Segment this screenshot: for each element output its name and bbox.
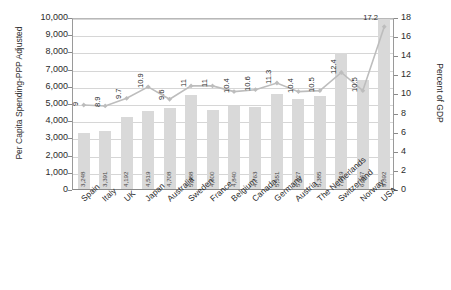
y-axis-left-tick-label: 0: [24, 184, 68, 194]
y-axis-left-tick-label: 4,000: [24, 115, 68, 125]
line-marker: [382, 24, 387, 29]
line-series: [73, 19, 395, 191]
line-point-label: 11.3: [264, 70, 273, 84]
line-point-label: 9: [71, 102, 80, 106]
line-point-label: 11: [200, 79, 209, 87]
y-axis-left-tick-label: 1,000: [24, 167, 68, 177]
line-point-label: 10.4: [286, 78, 295, 93]
y-axis-left-tick-label: 3,000: [24, 132, 68, 142]
line-point-label: 10.5: [307, 77, 316, 92]
line-point-label: 10.6: [243, 76, 252, 91]
y-axis-left-tick-label: 2,000: [24, 150, 68, 160]
line-point-label: 10.5: [350, 77, 359, 92]
line-marker: [210, 83, 215, 88]
line-point-label: 9.6: [157, 90, 166, 101]
y-axis-left-title: Per Capita Spending-PPP Adjusted: [14, 8, 24, 178]
y-axis-right-tick-label: 16: [401, 31, 427, 41]
y-axis-left-tick-label: 9,000: [24, 29, 68, 39]
chart-container: Per Capita Spending-PPP Adjusted Percent…: [0, 0, 451, 290]
y-axis-right-tick-label: 8: [401, 108, 427, 118]
line-point-label: 17.2: [363, 13, 378, 22]
y-axis-left-tick-label: 6,000: [24, 81, 68, 91]
y-axis-left-tick-label: 8,000: [24, 46, 68, 56]
y-axis-right-tick-label: 6: [401, 127, 427, 137]
line-point-label: 12.4: [329, 59, 338, 74]
y-axis-right-tick-label: 12: [401, 69, 427, 79]
y-axis-left-tick-mark: [68, 190, 72, 191]
y-axis-left-tick-label: 7,000: [24, 64, 68, 74]
line-marker: [103, 104, 108, 109]
plot-area: 3,2483,3914,1924,5194,7085,4884,6004,840…: [72, 18, 394, 190]
y-axis-right-tick-label: 18: [401, 12, 427, 22]
line-point-label: 10.9: [136, 73, 145, 88]
line-point-label: 11: [179, 79, 188, 87]
y-axis-right-title: Percent of GDP: [435, 8, 445, 178]
y-axis-left-tick-label: 10,000: [24, 12, 68, 22]
y-axis-right-tick-label: 0: [401, 184, 427, 194]
line-point-label: 8.9: [93, 96, 102, 107]
line-marker: [81, 103, 86, 108]
line-path: [84, 27, 385, 106]
line-marker: [275, 81, 280, 86]
line-point-label: 10.4: [222, 78, 231, 93]
line-marker: [232, 89, 237, 94]
line-marker: [253, 87, 258, 92]
y-axis-right-tick-label: 14: [401, 50, 427, 60]
y-axis-left-tick-label: 5,000: [24, 98, 68, 108]
line-point-label: 9.7: [114, 89, 123, 100]
line-marker: [296, 89, 301, 94]
y-axis-right-tick-label: 10: [401, 88, 427, 98]
y-axis-right-tick-label: 2: [401, 165, 427, 175]
y-axis-right-tick-label: 4: [401, 146, 427, 156]
